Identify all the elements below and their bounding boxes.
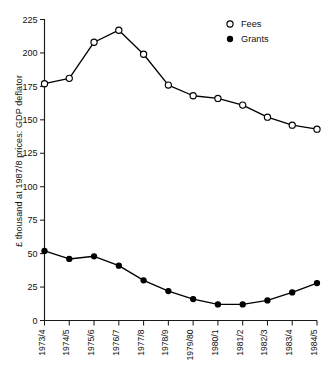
data-point-fees — [190, 93, 196, 99]
data-point-grants — [67, 256, 72, 261]
series-layer — [41, 27, 320, 307]
x-tick-label: 1975/6 — [86, 329, 96, 356]
x-tick-label: 1974/5 — [61, 329, 71, 356]
y-tick-label: 225 — [22, 15, 37, 25]
x-tick-label: 1983/4 — [284, 329, 294, 356]
series-line-fees — [45, 30, 318, 129]
chart-legend: FeesGrants — [227, 19, 269, 44]
legend-marker-fees — [227, 21, 233, 27]
x-tick-label: 1981/2 — [235, 329, 245, 356]
legend-label-fees: Fees — [241, 19, 262, 29]
data-point-fees — [289, 122, 295, 128]
data-point-grants — [191, 296, 196, 301]
data-point-fees — [41, 81, 47, 87]
x-tick-label: 1984/5 — [309, 329, 319, 356]
y-tick-label: 200 — [22, 48, 37, 58]
data-point-fees — [91, 39, 97, 45]
x-tick-label: 1980/1 — [210, 329, 220, 356]
y-tick-label: 150 — [22, 115, 37, 125]
data-point-grants — [240, 302, 245, 307]
legend-marker-grants — [227, 36, 232, 41]
data-point-grants — [141, 278, 146, 283]
x-tick-label: 1973/4 — [37, 329, 47, 356]
data-point-grants — [290, 290, 295, 295]
data-point-fees — [116, 27, 122, 33]
x-tick-label: 1977/8 — [136, 329, 146, 356]
x-tick-label: 1976/7 — [111, 329, 121, 356]
data-point-grants — [91, 254, 96, 259]
x-axis-ticks: 1973/41974/51975/61976/71977/81978/91979… — [37, 321, 320, 361]
data-point-fees — [165, 82, 171, 88]
y-tick-label: 125 — [22, 148, 37, 158]
chart-container: £ thousand at 1987/8 prices: GDP deflato… — [0, 0, 330, 375]
series-line-grants — [45, 251, 318, 305]
x-tick-label: 1982/3 — [259, 329, 269, 356]
y-tick-label: 25 — [27, 282, 37, 292]
y-tick-label: 0 — [32, 316, 37, 326]
y-axis-ticks: 0255075100125150175200225 — [22, 15, 44, 326]
data-point-fees — [264, 114, 270, 120]
y-tick-label: 75 — [27, 215, 37, 225]
data-point-grants — [166, 288, 171, 293]
y-tick-label: 50 — [27, 249, 37, 259]
data-point-fees — [240, 102, 246, 108]
data-point-fees — [140, 51, 146, 57]
data-point-fees — [314, 126, 320, 132]
x-tick-label: 1979/80 — [185, 329, 195, 360]
chart-plot-area: 0255075100125150175200225 1973/41974/519… — [0, 0, 330, 375]
data-point-grants — [314, 280, 319, 285]
data-point-fees — [66, 75, 72, 81]
data-point-grants — [265, 298, 270, 303]
data-point-fees — [215, 95, 221, 101]
data-point-grants — [42, 248, 47, 253]
data-point-grants — [215, 302, 220, 307]
y-tick-label: 100 — [22, 182, 37, 192]
data-point-grants — [116, 263, 121, 268]
y-tick-label: 175 — [22, 82, 37, 92]
legend-label-grants: Grants — [241, 34, 269, 44]
x-tick-label: 1978/9 — [160, 329, 170, 356]
